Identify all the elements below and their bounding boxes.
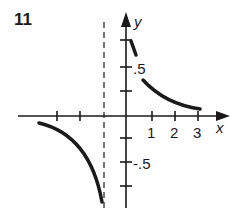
y-axis-label: y bbox=[133, 13, 143, 30]
y-tick-label-neg-half: -.5 bbox=[133, 155, 151, 172]
hyperbola-figure: 11 1 2 3 x .5 - bbox=[0, 0, 234, 212]
right-branch-lower-curve bbox=[143, 80, 200, 109]
y-axis-arrow-icon bbox=[121, 12, 131, 27]
right-branch-upper-curve bbox=[131, 41, 136, 55]
graph-canvas: 1 2 3 x .5 -.5 y bbox=[0, 0, 234, 212]
x-axis-label: x bbox=[215, 119, 224, 136]
x-tick-label-3: 3 bbox=[193, 124, 201, 141]
left-branch-curve bbox=[39, 123, 102, 202]
y-axis: .5 -.5 y bbox=[120, 12, 151, 208]
x-tick-label-1: 1 bbox=[147, 124, 155, 141]
x-tick-label-2: 2 bbox=[170, 124, 178, 141]
y-tick-label-pos-half: .5 bbox=[133, 60, 146, 77]
